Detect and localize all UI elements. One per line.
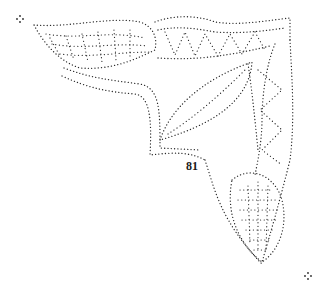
center-leaf — [160, 62, 252, 140]
corner-cross-mark-top-left — [16, 15, 24, 23]
corner-leaf-pattern — [0, 0, 316, 288]
right-leaf-upper — [248, 40, 293, 262]
right-leaf-lower — [205, 160, 284, 264]
left-leaf — [34, 20, 156, 68]
inner-border — [62, 68, 205, 160]
pattern-number: 81 — [186, 159, 198, 174]
corner-cross-mark-bottom-right — [304, 272, 312, 280]
top-band — [155, 17, 290, 59]
